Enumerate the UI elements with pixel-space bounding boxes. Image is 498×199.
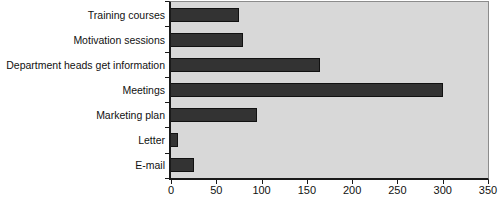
category-label-letter: Letter bbox=[0, 135, 165, 146]
x-axis-tick-label-200: 200 bbox=[343, 185, 361, 196]
plot-area bbox=[169, 1, 489, 180]
y-axis-tick-7 bbox=[165, 178, 169, 179]
bar-department-heads-get-information bbox=[171, 58, 320, 72]
x-axis-tick-label-350: 350 bbox=[479, 185, 497, 196]
category-label-training-courses: Training courses bbox=[0, 9, 165, 20]
y-axis-tick-6 bbox=[165, 153, 169, 154]
x-axis-tick-label-300: 300 bbox=[434, 185, 452, 196]
bar-e-mail bbox=[171, 158, 194, 172]
category-label-meetings: Meetings bbox=[0, 85, 165, 96]
y-axis-tick-0 bbox=[165, 1, 169, 2]
bar-training-courses bbox=[171, 8, 239, 22]
y-axis-tick-1 bbox=[165, 26, 169, 27]
y-axis-tick-3 bbox=[165, 77, 169, 78]
category-label-e-mail: E-mail bbox=[0, 160, 165, 171]
x-axis-tick-label-150: 150 bbox=[298, 185, 316, 196]
bar-meetings bbox=[171, 83, 443, 97]
y-axis-tick-5 bbox=[165, 127, 169, 128]
x-axis-tick-label-100: 100 bbox=[252, 185, 270, 196]
y-axis-tick-4 bbox=[165, 102, 169, 103]
x-axis-tick-label-0: 0 bbox=[168, 185, 174, 196]
category-label-motivation-sessions: Motivation sessions bbox=[0, 34, 165, 45]
category-label-department-heads-get-information: Department heads get information bbox=[0, 60, 165, 71]
x-axis-tick-label-250: 250 bbox=[388, 185, 406, 196]
bar-motivation-sessions bbox=[171, 33, 243, 47]
bar-letter bbox=[171, 133, 178, 147]
category-label-marketing-plan: Marketing plan bbox=[0, 110, 165, 121]
x-axis-tick-label-50: 50 bbox=[210, 185, 222, 196]
horizontal-bar-chart: Training coursesMotivation sessionsDepar… bbox=[0, 0, 498, 199]
bar-marketing-plan bbox=[171, 108, 257, 122]
y-axis-tick-2 bbox=[165, 52, 169, 53]
